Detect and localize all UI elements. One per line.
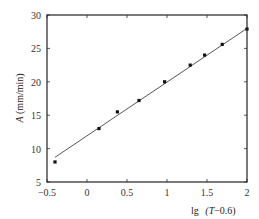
- plot-frame: [47, 15, 247, 182]
- y-axis-title: A (mm/min): [14, 73, 26, 123]
- data-point: [97, 127, 100, 130]
- chart: −0.500.511.52 51015202530 lg (T−0.6) A (…: [0, 0, 259, 219]
- y-tick-label: 10: [31, 144, 41, 155]
- data-point: [163, 80, 166, 83]
- data-point: [137, 99, 140, 102]
- fit-line-segment: [55, 28, 247, 157]
- data-point: [221, 43, 224, 46]
- x-tick-label: 2: [245, 187, 250, 198]
- x-tick-labels: −0.500.511.52: [38, 187, 250, 198]
- x-tick-label: 0.5: [121, 187, 134, 198]
- y-tick-label: 15: [31, 110, 41, 121]
- y-tick-labels: 51015202530: [31, 10, 41, 188]
- y-tick-label: 25: [31, 43, 41, 54]
- y-tick-label: 30: [31, 10, 41, 21]
- data-point: [53, 160, 56, 163]
- x-tick-label: 1.5: [201, 187, 214, 198]
- x-tick-label: 1: [165, 187, 170, 198]
- x-tick-label: 0: [85, 187, 90, 198]
- axis-ticks: [47, 15, 247, 182]
- x-axis-title: lg (T−0.6): [191, 205, 236, 217]
- y-tick-label: 20: [31, 77, 41, 88]
- y-tick-label: 5: [36, 177, 41, 188]
- fit-line: [55, 28, 247, 157]
- x-tick-label: −0.5: [38, 187, 56, 198]
- data-point: [189, 64, 192, 67]
- data-points: [53, 27, 248, 163]
- data-point: [116, 110, 119, 113]
- data-point: [203, 53, 206, 56]
